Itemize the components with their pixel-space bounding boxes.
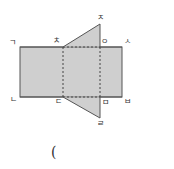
label-top-mid-right: ㅇ	[101, 38, 108, 46]
label-top-apex: ㅈ	[97, 14, 104, 22]
top-triangle-face	[63, 24, 100, 47]
answer-parenthesis: (	[51, 145, 56, 159]
label-top-right: ㅅ	[124, 38, 131, 46]
label-top-left: ㄱ	[9, 39, 16, 47]
label-bottom-mid-right: ㅁ	[102, 99, 109, 107]
label-bottom-left: ㄴ	[10, 96, 17, 104]
label-bottom-right: ㅂ	[124, 98, 131, 106]
bottom-triangle-face	[63, 97, 100, 118]
label-bottom-mid-left: ㄷ	[55, 98, 62, 106]
rectangle-face	[20, 47, 122, 97]
label-top-mid-left: ㅊ	[53, 37, 60, 45]
prism-net-diagram	[0, 0, 174, 169]
label-bottom-apex: ㄹ	[97, 120, 104, 128]
